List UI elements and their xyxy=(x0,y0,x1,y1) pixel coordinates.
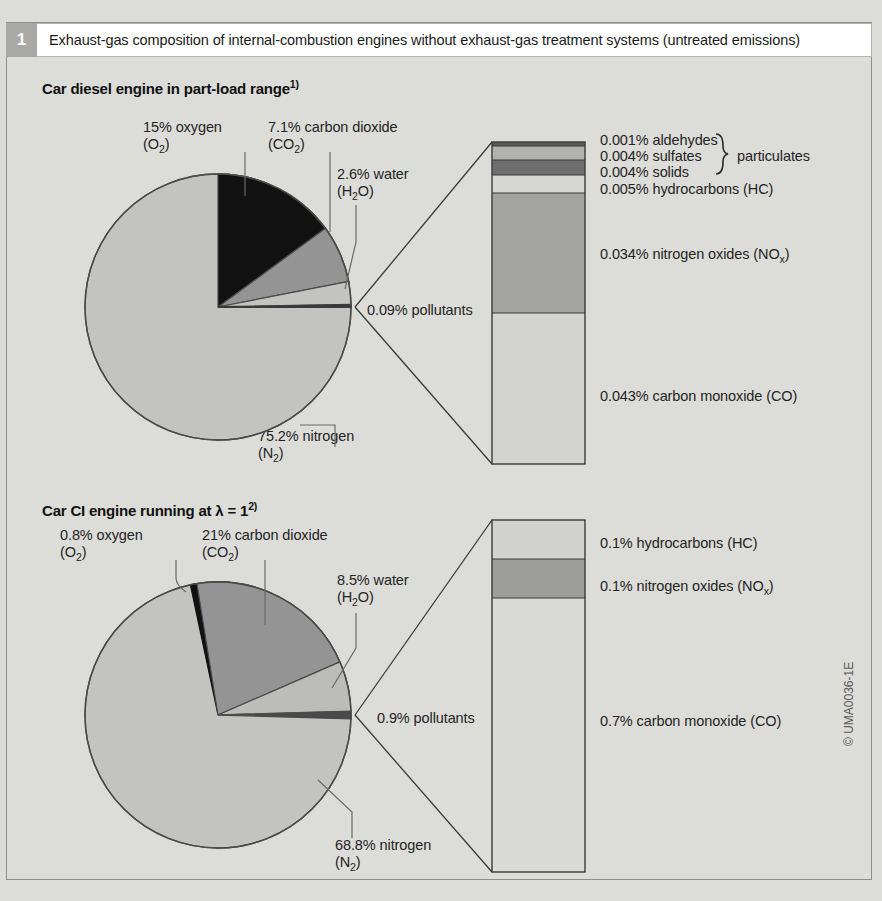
label-diesel-aldehydes: 0.001% aldehydes xyxy=(600,132,718,149)
label-diesel-co: 0.043% carbon monoxide (CO) xyxy=(600,388,797,405)
section-title-diesel: Car diesel engine in part-load range1) xyxy=(42,78,299,97)
label-ci-hc: 0.1% hydrocarbons (HC) xyxy=(600,535,757,552)
figure-title: Exhaust-gas composition of internal-comb… xyxy=(37,32,800,48)
label-particulates: particulates xyxy=(737,148,810,165)
footnote-marker-1: 1) xyxy=(290,78,299,90)
label-diesel-water: 2.6% water (H2O) xyxy=(337,166,409,205)
label-diesel-oxygen: 15% oxygen (O2) xyxy=(143,119,222,158)
label-diesel-pollutants: 0.09% pollutants xyxy=(367,302,473,319)
copyright-label: © UMA0036-1E xyxy=(842,662,856,746)
figure-page: 1 Exhaust-gas composition of internal-co… xyxy=(0,0,882,901)
label-ci-co: 0.7% carbon monoxide (CO) xyxy=(600,713,781,730)
label-diesel-co2: 7.1% carbon dioxide (CO2) xyxy=(268,119,398,158)
label-ci-nox: 0.1% nitrogen oxides (NOx) xyxy=(600,578,774,600)
figure-title-bar: Exhaust-gas composition of internal-comb… xyxy=(37,23,872,57)
label-ci-oxygen: 0.8% oxygen (O2) xyxy=(60,527,143,566)
figure-number: 1 xyxy=(6,23,37,57)
label-ci-water: 8.5% water (H2O) xyxy=(337,572,409,611)
label-diesel-nitrogen: 75.2% nitrogen (N2) xyxy=(258,428,354,467)
label-ci-co2: 21% carbon dioxide (CO2) xyxy=(202,527,328,566)
footnote-marker-2: 2) xyxy=(248,500,257,512)
label-diesel-nox: 0.034% nitrogen oxides (NOx) xyxy=(600,246,789,268)
label-diesel-solids: 0.004% solids xyxy=(600,164,689,181)
label-diesel-hc: 0.005% hydrocarbons (HC) xyxy=(600,181,773,198)
label-diesel-sulfates: 0.004% sulfates xyxy=(600,148,702,165)
label-ci-pollutants: 0.9% pollutants xyxy=(377,710,475,727)
label-ci-nitrogen: 68.8% nitrogen (N2) xyxy=(335,837,431,876)
section-title-ci: Car CI engine running at λ = 12) xyxy=(42,500,257,519)
